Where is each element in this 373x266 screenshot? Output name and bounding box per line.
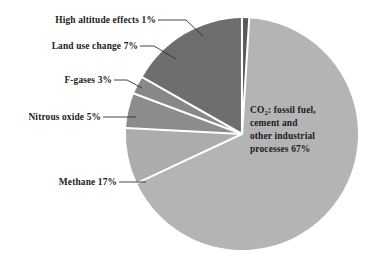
slice-label-co2-fossil-fuel: CO2: fossil fuel, cement and other indus… (250, 104, 358, 156)
co2-text: CO (250, 105, 264, 115)
co2-subscript: 2 (264, 109, 268, 117)
slice-label-high-altitude-effects: High altitude effects 1% (6, 14, 156, 26)
co2-label-line-3: other industrial (250, 131, 315, 141)
co2-label-line-2: cement and (250, 118, 298, 128)
pie-chart-figure: High altitude effects 1% Land use change… (0, 0, 373, 266)
slice-label-f-gases: F-gases 3% (6, 74, 112, 86)
co2-line1-rest: : fossil fuel, (268, 105, 316, 115)
slice-label-nitrous-oxide: Nitrous oxide 5% (2, 111, 101, 123)
co2-label-line-1: CO2: fossil fuel, (250, 105, 316, 115)
co2-label-line-4: processes 67% (250, 144, 310, 154)
slice-label-methane: Methane 17% (6, 176, 117, 188)
slice-label-land-use-change: Land use change 7% (6, 40, 138, 52)
